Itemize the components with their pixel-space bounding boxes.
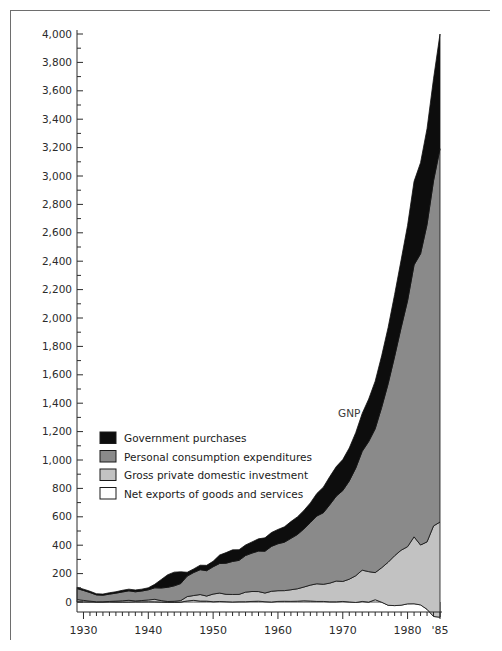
y-tick-label: 2,000 <box>42 312 72 324</box>
x-tick-label: 1970 <box>329 624 357 637</box>
legend-label-netexports: Net exports of goods and services <box>124 488 303 500</box>
legend-label-government: Government purchases <box>124 432 247 444</box>
y-tick-label: 3,200 <box>42 141 72 153</box>
legend-swatch-government <box>100 432 116 444</box>
y-tick-label: 0 <box>65 596 72 608</box>
y-tick-label: 3,600 <box>42 84 72 96</box>
gnp-annotation-label: GNP <box>338 407 360 419</box>
y-tick-label: 3,000 <box>42 170 72 182</box>
y-tick-label: 1,200 <box>42 425 72 437</box>
y-tick-label: 400 <box>52 539 72 551</box>
x-tick-label: 1960 <box>264 624 292 637</box>
y-tick-label: 4,000 <box>42 28 72 40</box>
y-tick-label: 1,800 <box>42 340 72 352</box>
y-tick-label: 2,400 <box>42 255 72 267</box>
y-tick-label: 3,400 <box>42 113 72 125</box>
gnp-annotation-group: GNP <box>338 407 360 419</box>
y-tick-label: 3,800 <box>42 56 72 68</box>
x-tick-label: 1940 <box>134 624 162 637</box>
y-tick-label: 200 <box>52 567 72 579</box>
legend-swatch-investment <box>100 469 116 481</box>
figure-frame: Billions of dollars 02004006008001,0001,… <box>10 10 490 640</box>
x-tick-label: '85 <box>431 624 448 637</box>
legend-swatch-personal <box>100 451 116 463</box>
y-tick-label: 2,800 <box>42 198 72 210</box>
x-tick-label: 1950 <box>199 624 227 637</box>
y-tick-label: 2,600 <box>42 226 72 238</box>
y-tick-label: 800 <box>52 482 72 494</box>
y-tick-label: 1,400 <box>42 397 72 409</box>
stacked-area-chart: 02004006008001,0001,2001,4001,6001,8002,… <box>11 11 491 641</box>
x-tick-label: 1980 <box>394 624 422 637</box>
x-tick-label: 1930 <box>69 624 97 637</box>
y-tick-label: 1,600 <box>42 368 72 380</box>
y-tick-label: 600 <box>52 510 72 522</box>
legend-label-investment: Gross private domestic investment <box>124 469 308 481</box>
y-tick-label: 1,000 <box>42 454 72 466</box>
y-tick-label: 2,200 <box>42 283 72 295</box>
legend-label-personal: Personal consumption expenditures <box>124 451 312 463</box>
legend-swatch-netexports <box>100 488 116 500</box>
